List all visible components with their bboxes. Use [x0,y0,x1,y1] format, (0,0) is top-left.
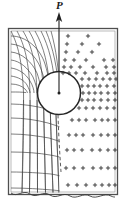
stress-figure: P [0,0,127,214]
figure-canvas [0,0,127,214]
